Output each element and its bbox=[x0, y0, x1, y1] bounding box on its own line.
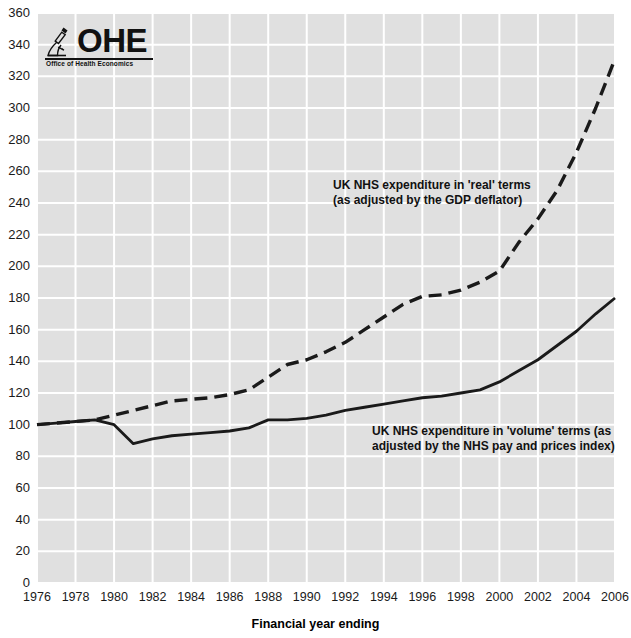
y-axis-tick-label: 220 bbox=[0, 228, 30, 241]
x-axis-tick-label: 1980 bbox=[92, 591, 136, 604]
y-axis-tick-label: 240 bbox=[0, 196, 30, 209]
y-axis-tick-label: 40 bbox=[0, 513, 30, 526]
annotation-volume-terms: UK NHS expenditure in 'volume' terms (as… bbox=[372, 424, 615, 454]
y-axis-tick-label: 300 bbox=[0, 101, 30, 114]
x-axis-tick-label: 2006 bbox=[593, 591, 631, 604]
y-axis-tick-label: 60 bbox=[0, 481, 30, 494]
y-axis-tick-label: 260 bbox=[0, 164, 30, 177]
x-axis-tick-label: 2004 bbox=[554, 591, 598, 604]
annotation-volume-terms-line1: UK NHS expenditure in 'volume' terms (as bbox=[372, 424, 615, 439]
ohe-logo: OHE Office of Health Economics bbox=[44, 24, 154, 70]
x-axis-tick-label: 1988 bbox=[246, 591, 290, 604]
annotation-real-terms-line2: (as adjusted by the GDP deflator) bbox=[333, 193, 531, 208]
y-axis-tick-label: 360 bbox=[0, 6, 30, 19]
y-axis-tick-label: 320 bbox=[0, 69, 30, 82]
y-axis-tick-label: 180 bbox=[0, 291, 30, 304]
y-axis-tick-label: 200 bbox=[0, 259, 30, 272]
x-axis-tick-label: 1978 bbox=[54, 591, 98, 604]
annotation-real-terms: UK NHS expenditure in 'real' terms (as a… bbox=[333, 178, 531, 208]
x-axis-tick-label: 1984 bbox=[169, 591, 213, 604]
x-axis-tick-label: 1996 bbox=[400, 591, 444, 604]
x-axis-tick-label: 1994 bbox=[362, 591, 406, 604]
y-axis-tick-label: 80 bbox=[0, 449, 30, 462]
x-axis-tick-label: 1986 bbox=[208, 591, 252, 604]
x-axis-tick-label: 2000 bbox=[477, 591, 521, 604]
x-axis-title: Financial year ending bbox=[0, 617, 631, 631]
x-axis-tick-label: 1998 bbox=[439, 591, 483, 604]
annotation-volume-terms-line2: adjusted by the NHS pay and prices index… bbox=[372, 439, 615, 454]
y-axis-tick-label: 340 bbox=[0, 38, 30, 51]
y-axis-tick-label: 100 bbox=[0, 418, 30, 431]
logo-wordmark: OHE bbox=[77, 24, 147, 57]
y-axis-tick-label: 160 bbox=[0, 323, 30, 336]
y-axis-tick-label: 280 bbox=[0, 133, 30, 146]
x-axis-tick-label: 2002 bbox=[516, 591, 560, 604]
annotation-real-terms-line1: UK NHS expenditure in 'real' terms bbox=[333, 178, 531, 193]
x-axis-tick-label: 1982 bbox=[131, 591, 175, 604]
y-axis-tick-label: 20 bbox=[0, 544, 30, 557]
logo-tagline: Office of Health Economics bbox=[46, 60, 133, 67]
y-axis-tick-label: 140 bbox=[0, 354, 30, 367]
chart-container: 0204060801001201401601802002202402602803… bbox=[0, 0, 631, 638]
x-axis-tick-label: 1992 bbox=[323, 591, 367, 604]
chart-canvas bbox=[0, 0, 631, 638]
y-axis-tick-label: 0 bbox=[0, 576, 30, 589]
x-axis-tick-label: 1990 bbox=[285, 591, 329, 604]
y-axis-tick-label: 120 bbox=[0, 386, 30, 399]
x-axis-tick-label: 1976 bbox=[15, 591, 59, 604]
microscope-icon bbox=[44, 25, 78, 59]
